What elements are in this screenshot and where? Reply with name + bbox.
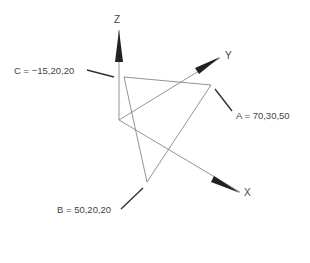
leader-lines (87, 70, 232, 209)
leader-b (121, 188, 143, 209)
z-axis-label: Z (114, 15, 120, 25)
x-axis-label: X (244, 188, 251, 198)
leader-c (87, 70, 114, 77)
arrowheads (115, 30, 240, 193)
leader-a (215, 89, 232, 111)
point-c-label: C = −15,20,20 (14, 66, 74, 76)
point-b-label: B = 50,20,20 (57, 205, 111, 215)
point-a-label: A = 70,30,50 (236, 111, 290, 121)
y-axis-label: Y (225, 51, 232, 61)
triangle-abc (124, 77, 211, 182)
x-arrow-icon (211, 176, 240, 193)
triangle (124, 77, 211, 182)
axes (119, 30, 240, 192)
coordinate-diagram (0, 0, 310, 263)
y-arrow-icon (195, 57, 220, 74)
z-arrow-icon (115, 30, 123, 62)
